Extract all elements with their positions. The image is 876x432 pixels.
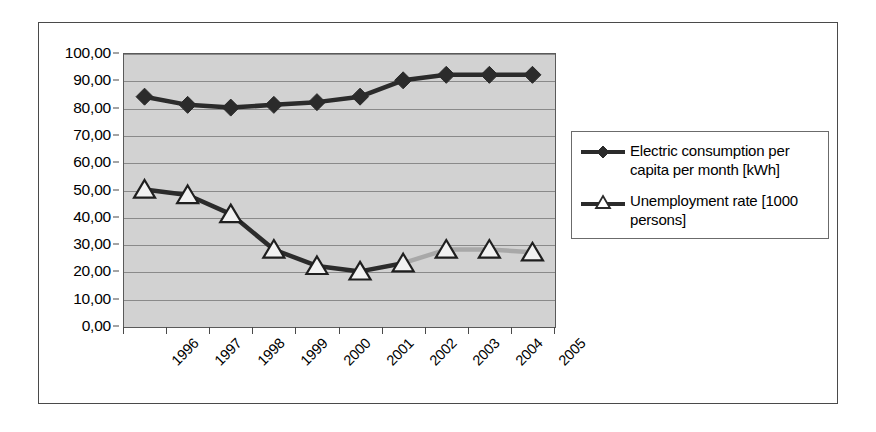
filled-diamond-icon bbox=[580, 142, 626, 162]
data-point-marker-triangle bbox=[220, 205, 241, 223]
legend-item-unemployment-rate: Unemployment rate [1000 persons] bbox=[580, 191, 822, 229]
legend-label-electric-consumption: Electric consumption per capita per mont… bbox=[630, 141, 822, 179]
x-axis-tick bbox=[554, 327, 555, 334]
chart-legend: Electric consumption per capita per mont… bbox=[571, 131, 829, 239]
x-axis-tick-label: 2004 bbox=[513, 335, 547, 369]
x-axis-tick-label: 2001 bbox=[383, 335, 417, 369]
data-point-marker-diamond bbox=[136, 88, 153, 105]
legend-label-unemployment-rate: Unemployment rate [1000 persons] bbox=[630, 191, 822, 229]
data-point-marker-diamond bbox=[308, 94, 325, 111]
data-point-marker-diamond bbox=[222, 99, 239, 116]
x-axis-ticks bbox=[123, 327, 556, 334]
hollow-triangle-icon bbox=[580, 192, 626, 212]
x-axis-tick-label: 2003 bbox=[469, 335, 503, 369]
x-axis-tick-label: 1996 bbox=[168, 335, 202, 369]
x-axis-tick bbox=[425, 327, 426, 334]
x-axis-tick-label: 1997 bbox=[211, 335, 245, 369]
x-axis-tick bbox=[339, 327, 340, 334]
x-axis-tick-label: 1998 bbox=[254, 335, 288, 369]
x-axis-tick bbox=[295, 327, 296, 334]
x-axis-tick-label: 2002 bbox=[426, 335, 460, 369]
data-point-marker-diamond bbox=[395, 72, 412, 89]
data-point-marker-diamond bbox=[524, 66, 541, 83]
chart-frame: 0,0010,0020,0030,0040,0050,0060,0070,008… bbox=[38, 22, 838, 404]
x-axis-tick bbox=[166, 327, 167, 334]
series-line bbox=[403, 250, 532, 264]
data-point-marker-diamond bbox=[481, 66, 498, 83]
data-point-marker-diamond bbox=[438, 66, 455, 83]
x-axis-tick bbox=[209, 327, 210, 334]
data-point-marker-diamond bbox=[352, 88, 369, 105]
x-axis-tick-label: 2000 bbox=[340, 335, 374, 369]
x-axis: 1996199719981999200020012002200320042005 bbox=[123, 335, 556, 395]
x-axis-tick bbox=[382, 327, 383, 334]
x-axis-tick bbox=[123, 327, 124, 334]
x-axis-tick bbox=[511, 327, 512, 334]
legend-item-electric-consumption: Electric consumption per capita per mont… bbox=[580, 141, 822, 179]
x-axis-tick-label: 1999 bbox=[297, 335, 331, 369]
data-point-marker-diamond bbox=[179, 96, 196, 113]
series-line bbox=[145, 75, 533, 108]
x-axis-tick bbox=[468, 327, 469, 334]
x-axis-tick bbox=[252, 327, 253, 334]
data-point-marker-diamond bbox=[265, 96, 282, 113]
